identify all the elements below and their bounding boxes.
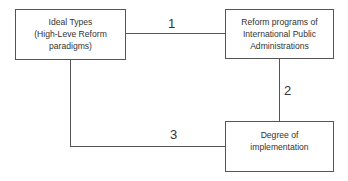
- edge-1-line: [126, 33, 225, 34]
- node-text-line: Degree of: [261, 129, 299, 141]
- node-text-line: Reform programs of: [241, 16, 317, 28]
- edge-3-line-vertical: [70, 60, 71, 147]
- edge-3-line-horizontal: [70, 146, 225, 147]
- node-reform-programs: Reform programs of International Public …: [225, 9, 334, 59]
- node-text-line: paradigms): [49, 40, 92, 52]
- node-text-line: Administrations: [250, 40, 309, 52]
- edge-3-label: 3: [170, 128, 177, 141]
- node-text-line: Ideal Types: [49, 16, 93, 28]
- edge-2-line: [279, 59, 280, 121]
- edge-1-label: 1: [168, 17, 175, 30]
- node-text-line: International Public: [243, 28, 316, 40]
- node-text-line: (High-Leve Reform: [34, 28, 107, 40]
- node-degree-implementation: Degree of implementation: [225, 121, 334, 172]
- node-text-line: implementation: [250, 141, 308, 153]
- node-ideal-types: Ideal Types (High-Leve Reform paradigms): [15, 9, 126, 60]
- edge-2-label: 2: [284, 84, 291, 97]
